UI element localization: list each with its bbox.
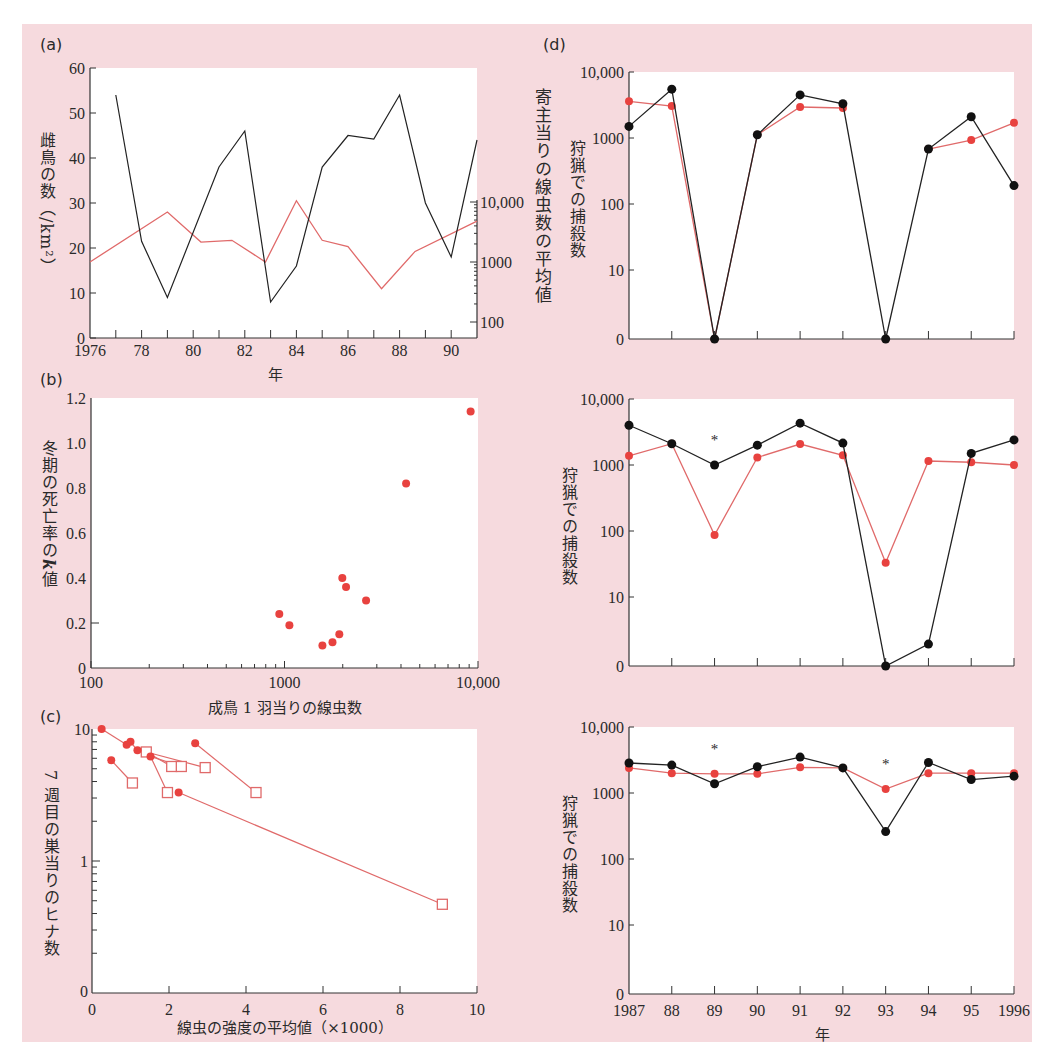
- data-point: [711, 770, 719, 778]
- data-point: [667, 85, 676, 94]
- b-ylabel-text: 冬期の死亡率の: [39, 440, 58, 559]
- circle-marker: [175, 789, 183, 797]
- data-point: [1010, 119, 1018, 127]
- data-point: [796, 90, 805, 99]
- chart-c: 02468101010: [74, 721, 485, 1018]
- c-xlabel: 線虫の強度の平均値（×1000）: [177, 1019, 393, 1037]
- y-tick-label: 100: [600, 523, 624, 540]
- y-tick-label: 30: [69, 195, 85, 212]
- b-ylabel-k: k: [39, 559, 58, 571]
- data-point: [710, 779, 719, 788]
- circle-marker: [127, 738, 135, 746]
- d-xlabel: 年: [815, 1026, 830, 1044]
- data-point: [1010, 461, 1018, 469]
- d-top-ylabel: 狩猟での捕殺数: [568, 140, 584, 259]
- square-marker: [127, 778, 137, 788]
- data-point: [796, 440, 804, 448]
- x-tick-label: 1996: [998, 1002, 1030, 1019]
- x-tick-label: 2: [165, 1001, 173, 1018]
- data-point: [924, 457, 932, 465]
- x-tick-label: 1000: [269, 674, 301, 691]
- x-tick-label: 90: [749, 1002, 765, 1019]
- y-tick-label: 10: [608, 589, 624, 606]
- x-tick-label: 92: [835, 1002, 851, 1019]
- data-point: [967, 112, 976, 121]
- square-marker: [437, 899, 447, 909]
- data-point: [838, 99, 847, 108]
- y-tick-label: 1000: [592, 457, 624, 474]
- x-tick-label: 94: [920, 1002, 936, 1019]
- x-tick-label: 6: [319, 1001, 327, 1018]
- square-marker: [162, 788, 172, 798]
- figure-svg: (a) (b) (c) (d) 197678808284868890010203…: [0, 0, 1061, 1060]
- circle-marker: [98, 725, 106, 733]
- data-point: [753, 441, 762, 450]
- y-tick-label: 0.4: [66, 570, 86, 587]
- data-point: [882, 785, 890, 793]
- data-point: [753, 130, 762, 139]
- data-point: [625, 97, 633, 105]
- plot-area: [629, 72, 1014, 339]
- data-point: [711, 531, 719, 539]
- data-point: [838, 763, 847, 772]
- data-point: [362, 597, 370, 605]
- data-point: [753, 762, 762, 771]
- data-point: [318, 642, 326, 650]
- data-point: [796, 753, 805, 762]
- data-point: [924, 145, 933, 154]
- x-tick-label: 4: [242, 1001, 250, 1018]
- y-tick-label: 0: [616, 986, 624, 1003]
- x-tick-label: 91: [792, 1002, 808, 1019]
- y-tick-label: 10,000: [580, 64, 624, 81]
- data-point: [753, 453, 761, 461]
- panel-label-c: (c): [40, 707, 61, 726]
- x-tick-label: 1987: [613, 1002, 645, 1019]
- x-tick-label: 84: [288, 342, 304, 359]
- plot-area: [629, 399, 1014, 666]
- b-ylabel: 冬期の死亡率のk値: [40, 440, 56, 588]
- y-tick-label: 0: [77, 330, 85, 347]
- data-point: [710, 461, 719, 470]
- data-point: [881, 662, 890, 671]
- data-point: [796, 419, 805, 428]
- data-point: [625, 758, 634, 767]
- significance-asterisk: *: [711, 741, 719, 757]
- data-point: [1010, 181, 1019, 190]
- y-tick-label: 10: [74, 721, 90, 738]
- x-tick-label: 95: [963, 1002, 979, 1019]
- square-marker: [251, 788, 261, 798]
- data-point: [668, 769, 676, 777]
- x-tick-label: 78: [134, 342, 150, 359]
- y2-tick-label: 10,000: [480, 194, 524, 211]
- d-mid-ylabel: 狩猟での捕殺数: [560, 467, 576, 586]
- x-tick-label: 90: [443, 342, 459, 359]
- square-marker: [176, 761, 186, 771]
- y-tick-label: 60: [69, 60, 85, 77]
- data-point: [924, 640, 933, 649]
- chart-a: 1976788082848688900102030405060100100010…: [69, 60, 524, 359]
- c-ylabel: 7 週目の巣当りのヒナ数: [42, 770, 58, 957]
- y-tick-label: 0.8: [66, 480, 86, 497]
- data-point: [285, 621, 293, 629]
- y2-tick-label: 100: [480, 314, 504, 331]
- d-bot-ylabel: 狩猟での捕殺数: [560, 795, 576, 914]
- data-point: [838, 439, 847, 448]
- x-tick-label: 80: [185, 342, 201, 359]
- x-tick-label: 93: [878, 1002, 894, 1019]
- x-tick-label: 88: [392, 342, 408, 359]
- data-point: [967, 449, 976, 458]
- x-tick-label: 10: [469, 1001, 485, 1018]
- data-point: [1010, 772, 1019, 781]
- data-point: [275, 610, 283, 618]
- x-tick-label: 8: [396, 1001, 404, 1018]
- plot-area: [90, 68, 477, 338]
- y-tick-label: 0: [616, 658, 624, 675]
- a-xlabel: 年: [268, 366, 283, 384]
- y-tick-label: 1.2: [66, 390, 86, 407]
- y-tick-label: 1.0: [66, 435, 86, 452]
- x-tick-label: 10,000: [456, 674, 500, 691]
- y-tick-label: 0.6: [66, 525, 86, 542]
- y-tick-label: 20: [69, 240, 85, 257]
- y-tick-label: 100: [600, 851, 624, 868]
- y-tick-label: 100: [600, 196, 624, 213]
